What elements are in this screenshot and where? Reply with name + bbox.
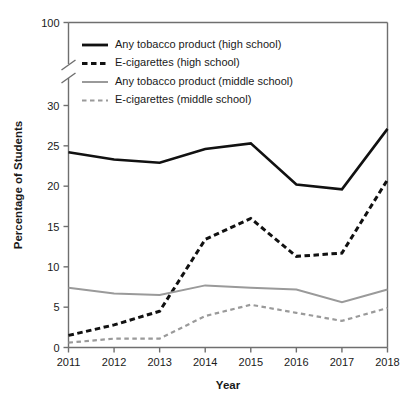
legend-label-0: Any tobacco product (high school) <box>115 38 281 50</box>
y-axis-ticks: 051015202530100 <box>41 17 68 354</box>
y-tick-label-20: 20 <box>47 180 59 192</box>
series-line-0 <box>69 129 388 190</box>
x-tick-label-2017: 2017 <box>330 356 354 368</box>
chart-container: 051015202530100 201120122013201420152016… <box>0 0 408 398</box>
chart-legend: Any tobacco product (high school)E-cigar… <box>82 38 293 106</box>
x-tick-label-2013: 2013 <box>147 356 171 368</box>
y-tick-label-10: 10 <box>47 261 59 273</box>
x-tick-label-2011: 2011 <box>57 356 81 368</box>
plot-frame <box>69 23 388 348</box>
legend-label-1: E-cigarettes (high school) <box>115 56 240 68</box>
series-line-2 <box>69 285 388 302</box>
y-tick-label-25: 25 <box>47 140 59 152</box>
y-tick-label-15: 15 <box>47 221 59 233</box>
legend-label-2: Any tobacco product (middle school) <box>115 75 293 87</box>
y-axis-title: Percentage of Students <box>12 121 24 249</box>
y-tick-label-5: 5 <box>53 301 59 313</box>
series-line-1 <box>69 180 388 336</box>
y-tick-label-100: 100 <box>41 17 59 29</box>
line-chart: 051015202530100 201120122013201420152016… <box>0 0 408 398</box>
legend-label-3: E-cigarettes (middle school) <box>115 93 251 105</box>
x-tick-label-2012: 2012 <box>102 356 126 368</box>
x-tick-label-2016: 2016 <box>284 356 308 368</box>
data-series-group <box>69 129 388 343</box>
x-axis-ticks: 20112012201320142015201620172018 <box>57 348 400 368</box>
x-tick-label-2014: 2014 <box>193 356 217 368</box>
y-tick-label-0: 0 <box>53 342 59 354</box>
x-tick-label-2015: 2015 <box>239 356 263 368</box>
y-tick-label-30: 30 <box>47 100 59 112</box>
x-axis-title: Year <box>216 379 241 391</box>
x-tick-label-2018: 2018 <box>375 356 399 368</box>
